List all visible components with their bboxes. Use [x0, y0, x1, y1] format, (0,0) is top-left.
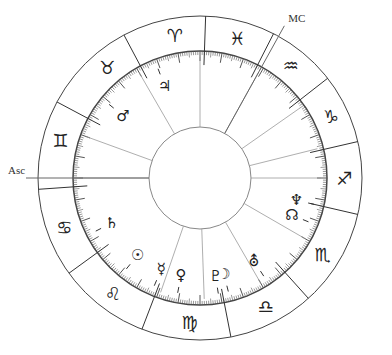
degree-tick [84, 126, 88, 128]
degree-tick [87, 234, 91, 236]
planet-uranus-icon: ⛢ [248, 252, 259, 270]
degree-tick [305, 241, 308, 243]
degree-tick [281, 82, 284, 85]
degree-tick [113, 268, 116, 271]
degree-tick [101, 255, 104, 258]
degree-tick [269, 73, 271, 76]
degree-tick [300, 103, 303, 105]
degree-tick [97, 103, 100, 105]
degree-tick [85, 229, 90, 232]
degree-tick [258, 66, 260, 70]
degree-tick [93, 109, 96, 111]
degree-tick [125, 75, 127, 78]
house-cusp [242, 109, 299, 149]
degree-tick [211, 299, 212, 305]
planet-marker [308, 203, 314, 204]
degree-tick [313, 226, 317, 228]
house-cusp [86, 137, 152, 161]
planet-marker [178, 287, 179, 293]
degree-tick [309, 118, 313, 120]
degree-tick [142, 65, 144, 69]
inner-circle [149, 127, 251, 229]
degree-tick [144, 289, 146, 293]
degree-tick [150, 61, 152, 65]
degree-tick [246, 60, 247, 64]
degree-tick [317, 145, 323, 147]
sign-boundary [204, 16, 206, 65]
degree-tick [290, 91, 293, 94]
sign-glyph-gemini-icon: ♊ [52, 130, 68, 151]
degree-tick [129, 73, 131, 76]
degree-tick [311, 232, 315, 234]
degree-tick [142, 288, 144, 292]
degree-tick [296, 98, 299, 101]
sign-glyph-sagittarius-alt-icon: ♐ [336, 168, 352, 189]
degree-tick [106, 93, 109, 96]
degree-tick [288, 263, 291, 266]
degree-tick [167, 295, 169, 301]
degree-tick [251, 63, 254, 68]
degree-tick [84, 228, 88, 230]
sign-glyph-pisces-icon: ♓ [229, 28, 245, 49]
degree-tick [148, 290, 150, 294]
degree-tick [117, 82, 120, 85]
degree-tick [254, 289, 256, 293]
sign-glyph-scorpio-alt-icon: ♏ [314, 244, 330, 265]
degree-tick [311, 122, 315, 124]
planet-venus-icon: ♀ [176, 266, 187, 284]
degree-tick [85, 124, 90, 127]
degree-tick [315, 156, 325, 158]
degree-tick [109, 263, 112, 266]
degree-tick [281, 271, 284, 274]
degree-tick [88, 236, 92, 238]
asc-label: Asc [8, 164, 25, 176]
degree-tick [293, 259, 296, 262]
planet-marker [96, 228, 101, 231]
degree-tick [120, 274, 123, 277]
degree-tick [129, 280, 131, 283]
sign-glyph-aries-icon: ♈ [167, 25, 183, 46]
degree-tick [115, 84, 118, 87]
degree-tick [138, 286, 140, 289]
degree-tick [103, 253, 111, 259]
degree-tick [296, 255, 299, 258]
degree-tick [118, 81, 124, 89]
degree-tick [95, 247, 98, 249]
degree-tick [251, 288, 254, 293]
degree-tick [310, 124, 315, 127]
degree-tick [189, 299, 190, 305]
planet-marker [217, 288, 218, 294]
degree-tick [277, 79, 280, 82]
degree-tick [89, 238, 92, 240]
degree-tick [107, 91, 110, 94]
degree-tick [302, 107, 305, 109]
degree-tick [308, 238, 311, 240]
degree-tick [315, 222, 319, 223]
degree-tick [285, 266, 288, 269]
degree-tick [267, 71, 269, 74]
degree-tick [86, 122, 90, 124]
sign-boundary [276, 262, 309, 298]
house-cusp [249, 149, 317, 166]
planet-mars-icon: ♂ [116, 107, 129, 125]
degree-tick [269, 280, 271, 283]
degree-tick [310, 229, 315, 232]
degree-tick [144, 64, 146, 68]
degree-tick [272, 75, 274, 78]
degree-tick [258, 287, 260, 291]
degree-tick [117, 271, 120, 274]
sign-boundary [142, 283, 160, 329]
degree-tick [86, 232, 90, 234]
degree-tick [315, 132, 319, 133]
degree-tick [310, 120, 314, 122]
degree-tick [303, 245, 306, 247]
degree-tick [146, 288, 149, 293]
degree-tick [81, 132, 85, 133]
planet-sun-icon: ☉ [131, 246, 144, 264]
degree-tick [140, 287, 142, 291]
degree-tick [107, 262, 110, 265]
degree-tick [92, 243, 95, 245]
degree-tick [263, 69, 265, 72]
degree-tick [297, 254, 300, 256]
degree-tick [285, 87, 288, 90]
